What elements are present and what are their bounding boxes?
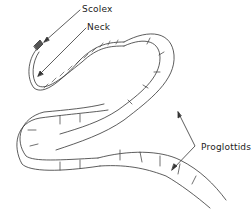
proglottids-bracket xyxy=(172,112,195,170)
proglottids-label: Proglottids xyxy=(201,142,251,152)
neck-label: Neck xyxy=(87,22,110,32)
neck-pointer xyxy=(38,28,86,76)
scolex-label: Scolex xyxy=(82,4,113,14)
tapeworm-diagram: Scolex Neck Proglottids xyxy=(0,0,252,217)
scolex-pointer xyxy=(44,10,80,42)
tapeworm-illustration xyxy=(0,0,252,217)
